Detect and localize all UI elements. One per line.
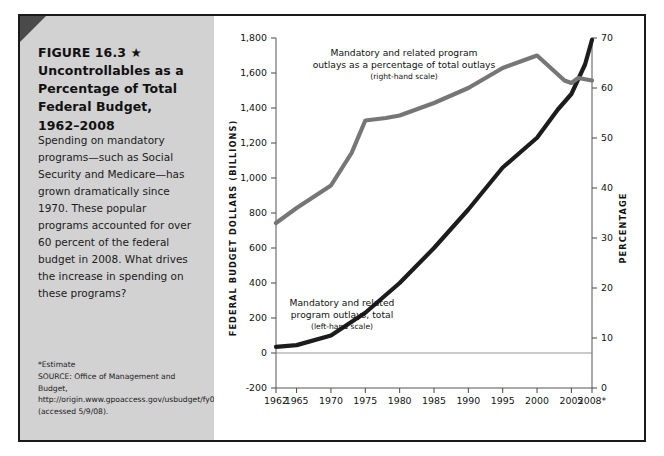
- y2-tick-label: 50: [601, 132, 613, 143]
- figure-title: FIGURE 16.3 ★ Uncontrollables as a Perce…: [38, 44, 198, 135]
- figure-title-line-1: FIGURE 16.3 ★: [38, 44, 198, 62]
- y-tick-label: 200: [249, 312, 267, 323]
- y2-tick-label: 60: [601, 82, 613, 93]
- y-tick-label: 0: [261, 347, 267, 358]
- x-tick-label: 1965: [285, 395, 309, 406]
- annotation-outlays-series: Mandatory and related program outlays, t…: [290, 297, 395, 331]
- annotation-percentage-series: Mandatory and related program outlays as…: [313, 47, 496, 81]
- y-tick-label: 1,400: [240, 102, 267, 113]
- x-tick-label: 1985: [422, 395, 446, 406]
- y-axis-right-title: PERCENTAGE: [618, 193, 628, 264]
- y2-tick-label: 70: [601, 32, 613, 43]
- y-tick-label: 1,000: [240, 172, 267, 183]
- estimate-note: *Estimate: [38, 359, 204, 371]
- source-note: *Estimate SOURCE: Office of Management a…: [38, 359, 204, 418]
- y2-tick-label: 10: [601, 332, 613, 343]
- y-tick-label: 1,600: [240, 67, 267, 78]
- y-axis-left-ticks: -20002004006008001,0001,2001,4001,6001,8…: [240, 32, 276, 393]
- figure-title-line-2: Uncontrollables as a: [38, 62, 198, 80]
- x-tick-label: 1970: [319, 395, 343, 406]
- annotation-outlays-line-1: Mandatory and related: [290, 297, 395, 308]
- x-tick-label: 1980: [388, 395, 412, 406]
- figure-caption-text: Spending on mandatory programs—such as S…: [38, 132, 196, 302]
- annotation-percentage-line-1: Mandatory and related program: [330, 47, 477, 58]
- x-tick-label: 1995: [491, 395, 515, 406]
- x-tick-label: 1990: [456, 395, 480, 406]
- x-tick-label: 2000: [525, 395, 549, 406]
- line-chart: -20002004006008001,0001,2001,4001,6001,8…: [214, 16, 644, 440]
- annotation-outlays-sub: (left-hand scale): [311, 322, 373, 331]
- y-tick-label: 1,800: [240, 32, 267, 43]
- y-axis-right-ticks: 010203040506070: [592, 32, 613, 393]
- corner-fold-decoration: [20, 16, 46, 42]
- x-tick-label: 1975: [353, 395, 377, 406]
- y2-tick-label: 30: [601, 232, 613, 243]
- annotation-outlays-line-2: program outlays, total: [291, 309, 393, 320]
- y-tick-label: 1,200: [240, 137, 267, 148]
- y-tick-label: 600: [249, 242, 267, 253]
- caption-panel: FIGURE 16.3 ★ Uncontrollables as a Perce…: [20, 16, 214, 440]
- y-tick-label: 800: [249, 207, 267, 218]
- source-text: SOURCE: Office of Management and Budget,…: [38, 372, 214, 416]
- annotation-percentage-sub: (right-hand scale): [370, 72, 438, 81]
- y-tick-label: 400: [249, 277, 267, 288]
- y2-tick-label: 40: [601, 182, 613, 193]
- y2-tick-label: 20: [601, 282, 613, 293]
- x-axis-ticks: 1962196519701975198019851990199520002005…: [264, 388, 607, 406]
- annotation-percentage-line-2: outlays as a percentage of total outlays: [313, 59, 496, 70]
- plot-panel: -20002004006008001,0001,2001,4001,6001,8…: [214, 16, 644, 440]
- figure-title-line-3: Percentage of Total: [38, 80, 198, 98]
- figure-container: FIGURE 16.3 ★ Uncontrollables as a Perce…: [18, 14, 646, 442]
- x-tick-label: 2008*: [578, 395, 607, 406]
- y2-tick-label: 0: [601, 382, 607, 393]
- figure-title-line-4: Federal Budget,: [38, 98, 198, 116]
- y-axis-left-title: FEDERAL BUDGET DOLLARS (BILLIONS): [228, 120, 238, 337]
- y-tick-label: -200: [246, 382, 267, 393]
